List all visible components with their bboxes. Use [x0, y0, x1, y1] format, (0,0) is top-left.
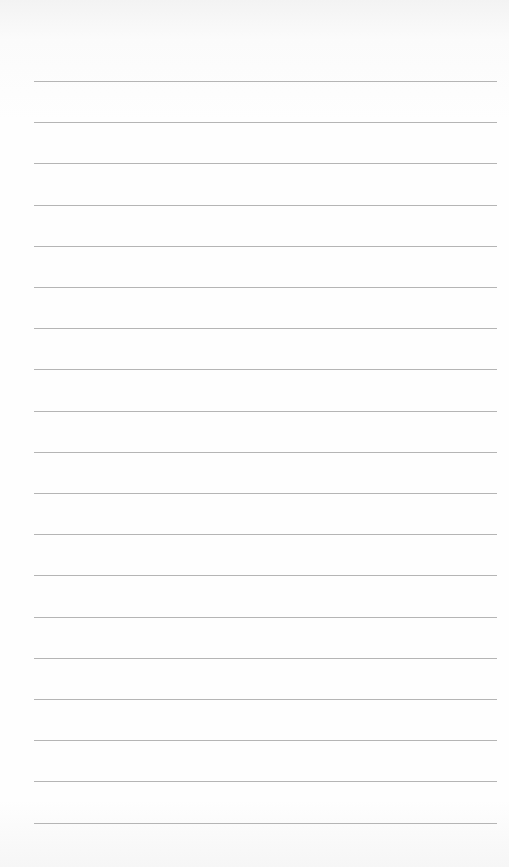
ruled-line — [34, 740, 497, 741]
ruled-line — [34, 658, 497, 659]
ruled-line — [34, 617, 497, 618]
ruled-line — [34, 287, 497, 288]
ruled-line — [34, 205, 497, 206]
ruled-line — [34, 369, 497, 370]
ruled-line — [34, 699, 497, 700]
ruled-line — [34, 246, 497, 247]
ruled-line — [34, 163, 497, 164]
ruled-line — [34, 823, 497, 824]
ruled-line — [34, 493, 497, 494]
ruled-line — [34, 81, 497, 82]
ruled-line — [34, 575, 497, 576]
ruled-line — [34, 452, 497, 453]
ruled-line — [34, 328, 497, 329]
ruled-line — [34, 534, 497, 535]
ruled-line — [34, 781, 497, 782]
ruled-line — [34, 122, 497, 123]
ruled-line — [34, 411, 497, 412]
lined-paper — [0, 0, 509, 867]
